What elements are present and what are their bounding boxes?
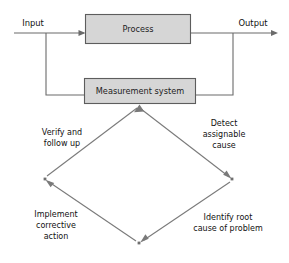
left-feedback-line xyxy=(46,33,84,95)
cycle-label-verify-line-1: Verify and xyxy=(42,128,82,137)
cycle-label-implement-line-1: Implement xyxy=(34,210,77,219)
cycle-label-identify-line-1: Identify root xyxy=(204,213,253,222)
input-arrow-head xyxy=(79,30,86,36)
cycle-label-detect-line-2: assignable xyxy=(203,130,246,139)
input-label: Input xyxy=(22,18,44,28)
cycle-label-detect-line-1: Detect xyxy=(211,119,238,128)
cycle-label-implement-line-3: action xyxy=(44,232,69,241)
process-feedback-diagram: Process Measurement system xyxy=(0,0,289,263)
diagram-canvas: Process Measurement system xyxy=(0,0,289,263)
cycle-label-verify: Verify and follow up xyxy=(42,128,82,148)
cycle-label-detect: Detect assignable cause xyxy=(203,119,246,150)
output-arrow-head xyxy=(271,30,278,36)
cycle-label-implement-line-2: corrective xyxy=(36,221,76,230)
process-box: Process xyxy=(86,15,191,44)
process-box-label: Process xyxy=(122,24,153,34)
cycle-label-identify-line-2: cause of problem xyxy=(193,224,263,233)
cycle-label-detect-line-3: cause xyxy=(212,141,236,150)
output-label: Output xyxy=(238,18,268,28)
right-feedback-line xyxy=(196,33,233,95)
cycle-label-identify: Identify root cause of problem xyxy=(193,213,263,233)
measurement-box: Measurement system xyxy=(85,79,196,104)
cycle-label-implement: Implement corrective action xyxy=(34,210,77,241)
measurement-box-label: Measurement system xyxy=(96,86,184,96)
cycle-label-verify-line-2: follow up xyxy=(44,139,80,148)
